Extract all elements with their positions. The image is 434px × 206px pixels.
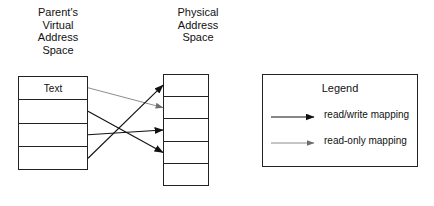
readonly-arrow-icon [270, 134, 322, 152]
mapping-arrow [88, 130, 163, 135]
diagram-canvas: Parent's Virtual Address Space Physical … [0, 0, 434, 206]
legend-label: read/write mapping [324, 109, 409, 120]
legend-title: Legend [262, 82, 418, 94]
legend-item-readonly: read-only mapping [262, 134, 418, 152]
mapping-arrow [88, 85, 163, 158]
mapping-arrow [88, 88, 163, 108]
legend-label: read-only mapping [324, 135, 407, 146]
readwrite-arrow-icon [270, 108, 322, 126]
legend-item-readwrite: read/write mapping [262, 108, 418, 126]
